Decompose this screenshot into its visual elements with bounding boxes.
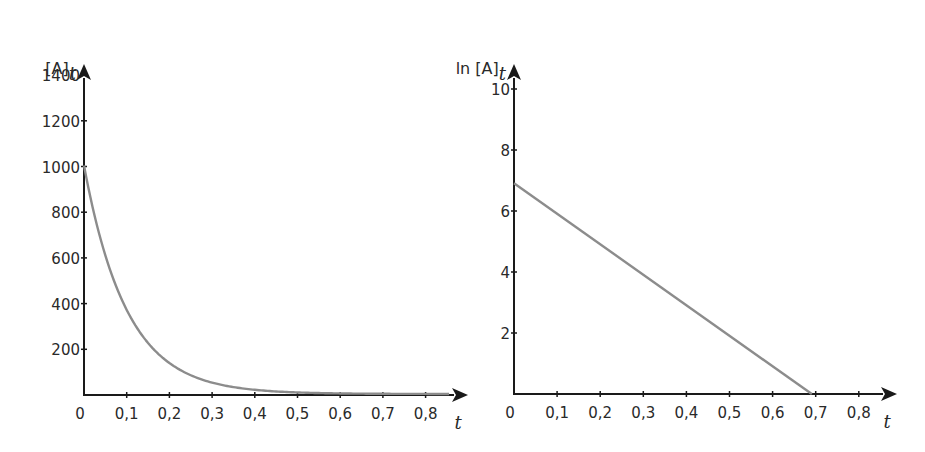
y-tick-label: 400 [51,296,80,314]
log-concentration-vs-time-chart: 00,10,20,30,40,50,60,70,8246810ln [A]tt [430,0,925,452]
data-series-line [514,183,812,394]
y-axis-title: ln [A]t [456,59,507,84]
y-tick-label: 600 [51,250,80,268]
y-tick-label: 1200 [42,113,80,131]
x-tick-label: 0,1 [545,404,569,422]
x-tick-label: 0 [75,405,85,423]
y-tick-label: 1000 [42,159,80,177]
x-tick-label: 0,7 [804,404,828,422]
concentration-plot: 00,10,20,30,40,50,60,70,8200400600800100… [0,0,470,452]
x-tick-label: 0,3 [631,404,655,422]
x-tick-label: 0,3 [200,405,224,423]
x-tick-label: 0,5 [286,405,310,423]
x-tick-label: 0,2 [157,405,181,423]
concentration-vs-time-chart: 00,10,20,30,40,50,60,70,8200400600800100… [0,0,470,452]
x-axis-title: t [883,411,891,432]
y-tick-label: 800 [51,204,80,222]
x-tick-label: 0 [505,404,515,422]
x-tick-label: 0,4 [674,404,698,422]
y-tick-label: 8 [500,142,510,160]
x-tick-label: 0,8 [847,404,871,422]
x-axis-arrow-icon [881,387,897,401]
data-series-line [84,166,449,394]
x-tick-label: 0,6 [328,405,352,423]
y-axis-arrow-icon [507,64,521,80]
y-tick-label: 6 [500,203,510,221]
x-tick-label: 0,2 [588,404,612,422]
log-concentration-plot: 00,10,20,30,40,50,60,70,8246810ln [A]tt [430,0,925,452]
x-tick-label: 0,1 [115,405,139,423]
y-tick-label: 200 [51,341,80,359]
x-tick-label: 0,6 [761,404,785,422]
x-tick-label: 0,4 [243,405,267,423]
y-tick-label: 4 [500,264,510,282]
x-tick-label: 0,5 [718,404,742,422]
y-tick-label: 2 [500,325,510,343]
x-tick-label: 0,7 [371,405,395,423]
